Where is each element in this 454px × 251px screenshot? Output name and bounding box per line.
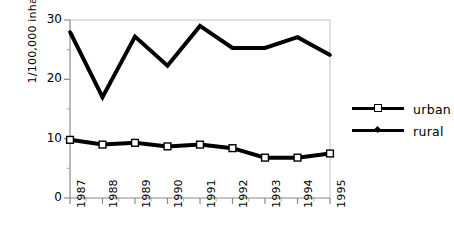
line-chart: 1/100,000 inhabitants 30 20 10 0 bbox=[0, 0, 454, 251]
x-tick-label: 1989 bbox=[140, 179, 153, 208]
legend-key-urban bbox=[352, 102, 404, 116]
x-tick-label: 1987 bbox=[75, 179, 88, 208]
x-tick-label: 1992 bbox=[237, 179, 250, 208]
data-point-marker bbox=[99, 141, 106, 148]
x-tick-label: 1990 bbox=[172, 179, 185, 208]
data-point-marker bbox=[132, 139, 139, 146]
open-square-marker-icon bbox=[374, 104, 382, 112]
x-tick-label: 1991 bbox=[205, 179, 218, 208]
legend-label-rural: rural bbox=[413, 124, 444, 139]
data-point-marker bbox=[294, 154, 301, 161]
legend-item-urban[interactable]: urban bbox=[352, 98, 451, 120]
data-point-marker bbox=[67, 136, 74, 143]
legend: urban rural bbox=[352, 98, 451, 142]
legend-key-rural bbox=[352, 124, 404, 138]
x-tick-label: 1995 bbox=[335, 179, 348, 208]
data-point-marker bbox=[262, 154, 269, 161]
legend-item-rural[interactable]: rural bbox=[352, 120, 451, 142]
data-point-marker bbox=[164, 143, 171, 150]
series-line-rural bbox=[70, 26, 330, 97]
x-tick-label: 1994 bbox=[302, 179, 315, 208]
data-point-marker bbox=[327, 150, 334, 157]
x-tick-label: 1988 bbox=[107, 179, 120, 208]
data-point-marker bbox=[229, 145, 236, 152]
x-tick-label: 1993 bbox=[270, 179, 283, 208]
legend-label-urban: urban bbox=[413, 102, 451, 117]
data-point-marker bbox=[197, 141, 204, 148]
